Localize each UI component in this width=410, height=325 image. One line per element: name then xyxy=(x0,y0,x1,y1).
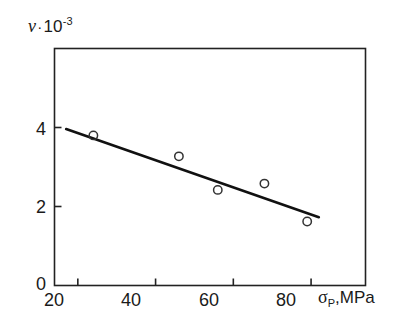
data-point-3 xyxy=(260,179,268,187)
data-point-4 xyxy=(303,217,311,225)
chart-figure: ν·10-3 σP,MPa 0 2 4 20 40 60 80 xyxy=(0,0,410,325)
axis-ticks xyxy=(55,128,312,286)
data-markers xyxy=(89,131,311,226)
data-point-2 xyxy=(214,186,222,194)
fit-line-path xyxy=(66,129,319,217)
fit-line xyxy=(66,129,319,217)
plot-area xyxy=(0,0,410,325)
data-point-1 xyxy=(175,152,183,160)
plot-frame xyxy=(55,49,366,286)
